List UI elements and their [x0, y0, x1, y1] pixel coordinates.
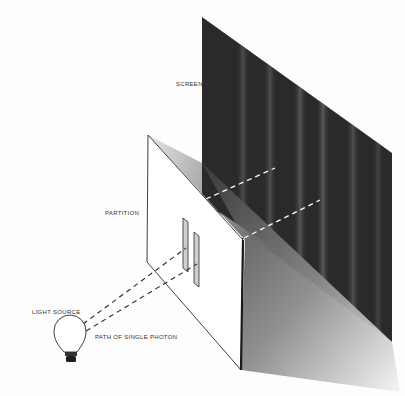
partition-label: PARTITION [105, 210, 139, 216]
light-bulb-icon [54, 315, 86, 362]
slit-1 [183, 218, 188, 272]
light-source-label: LIGHT SOURCE [32, 309, 81, 315]
diagram-canvas [0, 0, 405, 396]
slit-2 [194, 232, 199, 287]
photon-path-label: PATH OF SINGLE PHOTON [95, 334, 177, 340]
screen-label: SCREEN [176, 81, 203, 87]
double-slit-diagram: SCREEN PARTITION LIGHT SOURCE PATH OF SI… [0, 0, 405, 396]
